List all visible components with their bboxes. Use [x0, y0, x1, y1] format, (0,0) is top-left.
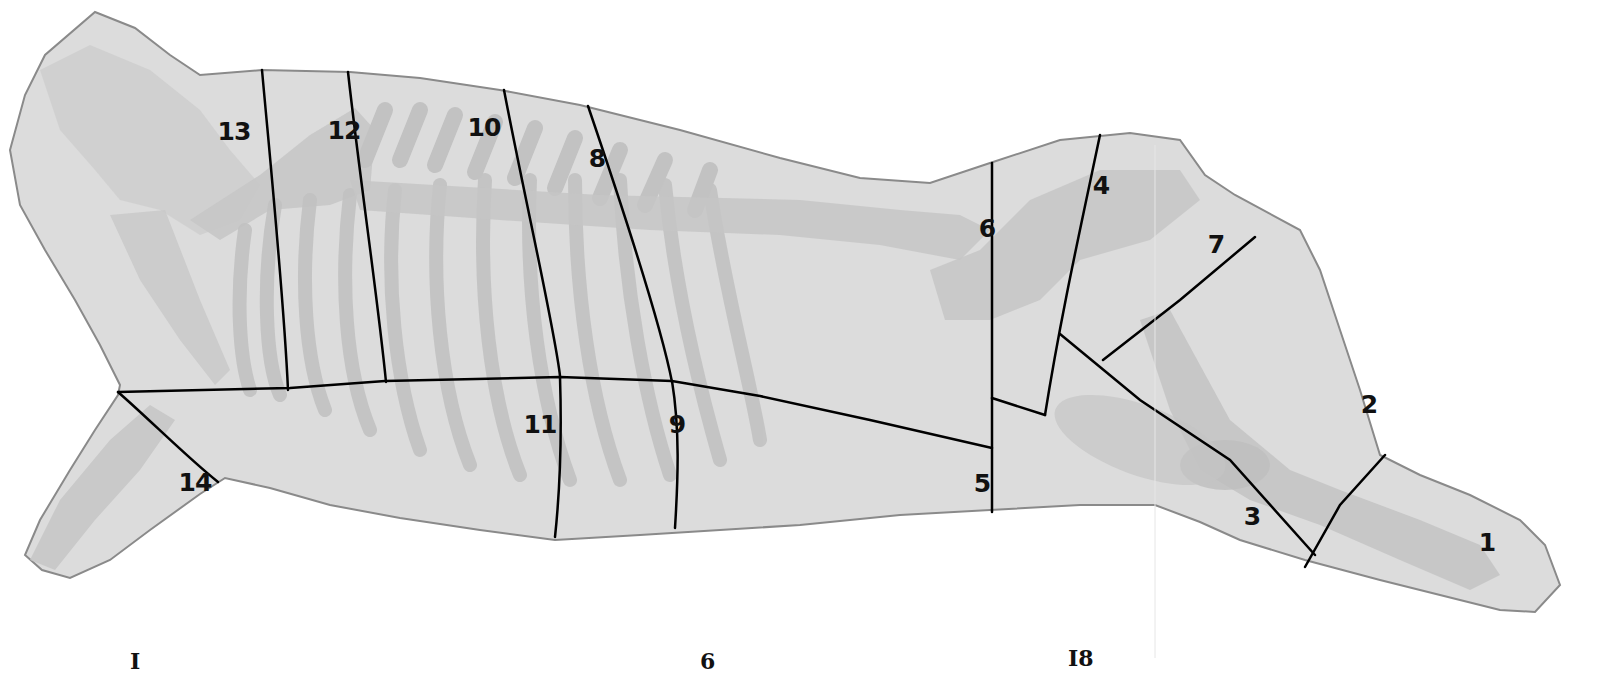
caption-fragment-2: 6 [700, 650, 715, 672]
cut-label-14: 14 [179, 470, 212, 495]
cut-label-4: 4 [1093, 173, 1109, 198]
caption-fragment-1: I [130, 650, 140, 672]
cut-label-11: 11 [524, 412, 557, 437]
cut-label-13: 13 [218, 119, 251, 144]
cut-label-12: 12 [328, 118, 361, 143]
cut-label-9: 9 [669, 412, 685, 437]
cut-label-2: 2 [1361, 392, 1377, 417]
caption-fragment-3: I8 [1068, 647, 1094, 669]
cut-label-5: 5 [974, 471, 990, 496]
cut-label-6: 6 [979, 216, 995, 241]
cut-label-3: 3 [1244, 504, 1260, 529]
cut-label-8: 8 [589, 146, 605, 171]
cut-label-1: 1 [1479, 530, 1495, 555]
cut-label-7: 7 [1208, 232, 1224, 257]
cut-label-10: 10 [468, 115, 501, 140]
